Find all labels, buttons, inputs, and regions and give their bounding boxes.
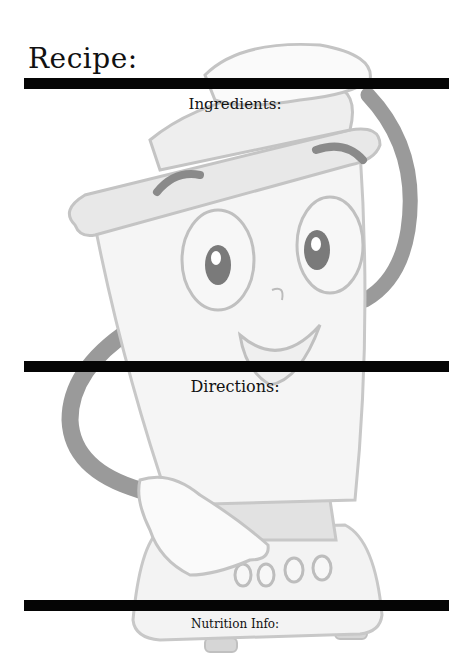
divider-bar-middle	[24, 361, 449, 372]
directions-heading: Directions:	[0, 377, 470, 396]
ingredients-heading: Ingredients:	[0, 95, 470, 113]
nutrition-info-field[interactable]	[30, 636, 440, 664]
recipe-title-label: Recipe:	[28, 42, 138, 75]
divider-bar-top	[24, 78, 449, 89]
divider-bar-bottom	[24, 600, 449, 611]
ingredients-field[interactable]	[30, 118, 440, 356]
nutrition-info-heading: Nutrition Info:	[0, 617, 470, 631]
recipe-title-field[interactable]	[130, 44, 440, 76]
directions-field[interactable]	[30, 400, 440, 594]
